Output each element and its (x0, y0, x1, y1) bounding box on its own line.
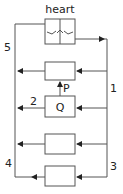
label-5: 5 (4, 41, 11, 54)
organ-box-3 (45, 134, 75, 154)
organ-box-1 (45, 62, 75, 80)
label-1: 1 (110, 82, 117, 95)
label-p: P (63, 82, 70, 95)
label-3: 3 (110, 160, 117, 173)
organ-box-4 (45, 166, 75, 186)
label-4: 4 (5, 157, 12, 170)
label-q: Q (56, 101, 65, 114)
label-2: 2 (30, 95, 37, 108)
heart-label: heart (45, 3, 75, 16)
circulation-diagram: heart 5 1 P 2 Q 4 3 (0, 0, 123, 194)
